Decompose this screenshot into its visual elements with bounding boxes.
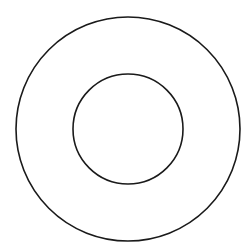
inner-circle <box>73 74 183 184</box>
concentric-circles-diagram <box>0 0 248 242</box>
outer-circle <box>16 17 240 241</box>
